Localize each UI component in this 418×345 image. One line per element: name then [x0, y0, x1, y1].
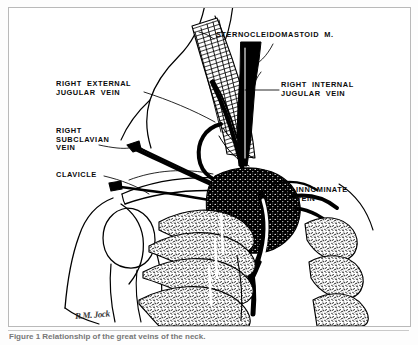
label-sternocleidomastoid: STERNOCLEIDOMASTOID M. [216, 31, 334, 40]
caption-divider [8, 330, 409, 331]
figure-caption: Figure 1 Relationship of the great veins… [9, 333, 409, 345]
figure-frame: STERNOCLEIDOMASTOID M. RIGHT INTERNAL JU… [8, 7, 411, 327]
label-right-subclavian-vein: RIGHT SUBCLAVIAN VEIN [56, 127, 109, 153]
label-innominate-vein: INNOMINATE VEIN [296, 186, 348, 203]
label-right-external-jugular-vein: RIGHT EXTERNAL JUGULAR VEIN [56, 80, 131, 97]
label-clavicle: CLAVICLE [56, 171, 97, 180]
figure-caption-text: Figure 1 Relationship of the great veins… [9, 333, 409, 341]
anatomical-illustration [9, 8, 410, 326]
screenshot-page: STERNOCLEIDOMASTOID M. RIGHT INTERNAL JU… [0, 0, 418, 345]
label-right-internal-jugular-vein: RIGHT INTERNAL JUGULAR VEIN [281, 81, 354, 98]
